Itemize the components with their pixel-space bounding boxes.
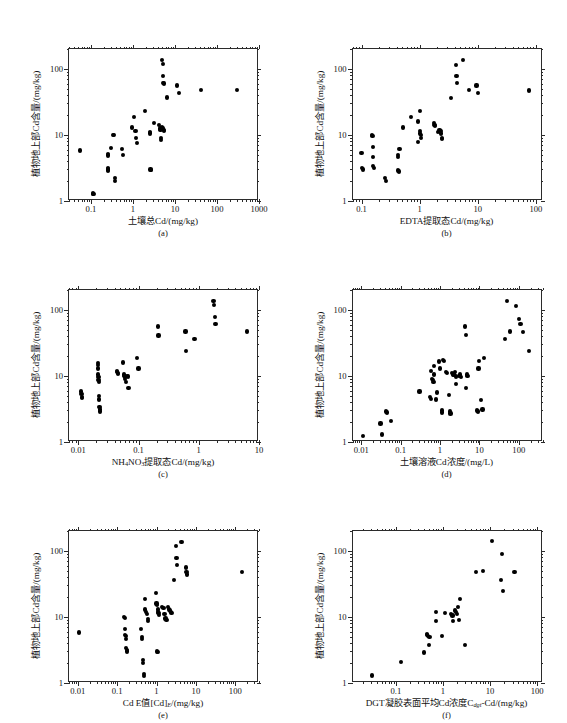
x-tick-minor: [469, 47, 470, 49]
data-point: [124, 380, 128, 384]
x-tick-minor: [235, 288, 236, 290]
x-tick-minor: [146, 47, 147, 49]
data-point: [154, 591, 158, 595]
x-tick-minor: [363, 529, 364, 531]
x-tick-minor: [394, 681, 395, 684]
y-tick-minor: [350, 585, 353, 586]
y-tick-minor: [350, 531, 353, 532]
y-tick-minor: [67, 561, 70, 562]
y-tick-major: [64, 617, 69, 618]
y-tick-label: 100: [334, 547, 347, 556]
y-tick-minor: [350, 356, 353, 357]
x-tick-minor: [131, 199, 132, 202]
data-point: [451, 619, 455, 623]
x-axis-label-c: NH4NO3提取态Cd/(mg/kg): [68, 457, 258, 468]
x-tick-label: 1000: [250, 205, 267, 214]
y-tick-major: [541, 551, 545, 552]
x-tick-minor: [465, 199, 466, 202]
x-tick-minor: [373, 288, 374, 290]
data-point: [429, 397, 433, 401]
y-tick-minor: [541, 79, 543, 80]
y-tick-major: [257, 551, 261, 552]
y-tick-minor: [350, 627, 353, 628]
x-tick-minor: [148, 681, 149, 684]
x-tick-major: [133, 45, 134, 49]
x-tick-minor: [145, 529, 146, 531]
x-tick-minor: [402, 199, 403, 202]
plot-area-d: 0.010.1110100110100: [352, 289, 542, 441]
y-tick-minor: [67, 391, 70, 392]
y-tick-minor: [257, 531, 259, 532]
x-tick-major: [537, 527, 538, 531]
data-point: [416, 119, 420, 123]
y-tick-minor: [67, 379, 70, 380]
panel-tag-f: (f): [352, 711, 542, 720]
panel-d: 植物地上部Cd含量/(mg/kg) 0.010.1110100110100 土壤…: [284, 241, 567, 482]
x-tick-minor: [389, 199, 390, 202]
x-tick-minor: [483, 681, 484, 684]
x-tick-minor: [200, 47, 201, 49]
x-tick-minor: [78, 199, 79, 202]
x-tick-minor: [192, 529, 193, 531]
x-tick-minor: [513, 681, 514, 684]
y-tick-minor: [257, 402, 259, 403]
data-point: [463, 324, 467, 328]
x-tick-minor: [74, 199, 75, 202]
x-tick-minor: [434, 288, 435, 290]
y-tick-minor: [541, 663, 543, 664]
x-tick-minor: [247, 681, 248, 684]
data-point: [240, 570, 244, 574]
data-point: [401, 125, 405, 129]
data-point: [512, 570, 516, 574]
y-tick-minor: [350, 330, 353, 331]
x-tick-minor: [87, 47, 88, 49]
data-point: [385, 410, 389, 414]
x-tick-major: [440, 286, 441, 290]
data-point: [106, 153, 110, 157]
y-tick-minor: [541, 356, 543, 357]
x-tick-minor: [69, 440, 70, 443]
x-tick-minor: [153, 529, 154, 531]
x-tick-minor: [250, 440, 251, 443]
y-tick-minor: [67, 577, 70, 578]
data-point: [459, 375, 463, 379]
x-tick-minor: [533, 681, 534, 684]
x-tick-minor: [133, 440, 134, 443]
x-tick-minor: [200, 199, 201, 202]
data-point: [467, 88, 471, 92]
data-point: [97, 397, 101, 401]
data-point: [235, 88, 239, 92]
y-tick-label: 1: [59, 679, 63, 688]
x-tick-minor: [133, 288, 134, 290]
data-point: [432, 364, 436, 368]
x-tick-major: [78, 527, 79, 531]
x-tick-minor: [436, 288, 437, 290]
y-tick-minor: [541, 379, 543, 380]
x-tick-minor: [410, 529, 411, 531]
x-tick-minor: [359, 440, 360, 443]
x-tick-major: [235, 527, 236, 531]
x-tick-minor: [460, 199, 461, 202]
x-tick-minor: [411, 199, 412, 202]
y-tick-minor: [67, 320, 70, 321]
x-tick-minor: [168, 47, 169, 49]
x-tick-minor: [464, 440, 465, 443]
x-tick-major: [396, 527, 397, 531]
y-tick-minor: [541, 320, 543, 321]
x-tick-minor: [517, 288, 518, 290]
x-tick-minor: [353, 288, 354, 290]
x-tick-label: 0.1: [390, 687, 401, 696]
x-tick-minor: [210, 47, 211, 49]
x-tick-minor: [392, 288, 393, 290]
x-tick-minor: [380, 440, 381, 443]
x-tick-label: 10: [475, 446, 484, 455]
x-tick-minor: [210, 199, 211, 202]
y-tick-minor: [541, 651, 543, 652]
panel-tag-e: (e): [68, 711, 258, 720]
data-point: [455, 612, 459, 616]
y-tick-minor: [541, 155, 543, 156]
x-tick-minor: [230, 199, 231, 202]
x-tick-minor: [231, 681, 232, 684]
data-point: [527, 88, 531, 92]
x-tick-minor: [120, 288, 121, 290]
